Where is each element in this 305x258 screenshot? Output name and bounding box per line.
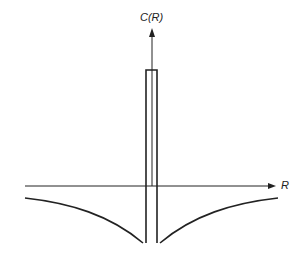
x-axis-label: R	[281, 179, 289, 191]
correlation-plot	[0, 0, 305, 258]
y-axis-arrow-icon	[149, 28, 155, 37]
left-curve	[25, 198, 143, 243]
x-axis-arrow-icon	[268, 183, 276, 189]
y-axis-label: C(R)	[140, 11, 163, 23]
right-curve	[160, 198, 278, 243]
